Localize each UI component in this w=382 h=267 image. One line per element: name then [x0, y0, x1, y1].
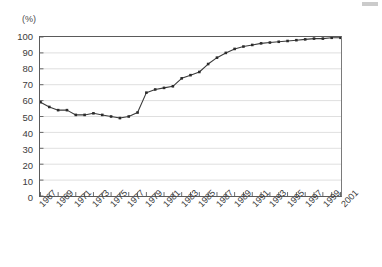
x-axis-tick-labels: 1967196919711973197519771979198119831985… [0, 0, 382, 267]
x-axis-tick-label: 1967 [37, 188, 58, 209]
x-axis-tick-label: 1983 [179, 188, 200, 209]
x-axis-tick-label: 1987 [214, 188, 235, 209]
x-axis-tick-label: 1973 [90, 188, 111, 209]
x-axis-tick-label: 1979 [143, 188, 164, 209]
x-axis-tick-label: 2001 [339, 188, 360, 209]
x-axis-tick-label: 1999 [321, 188, 342, 209]
x-axis-tick-label: 1997 [303, 188, 324, 209]
x-axis-tick-label: 1989 [232, 188, 253, 209]
x-axis-tick-label: 1991 [250, 188, 271, 209]
x-axis-tick-label: 1969 [54, 188, 75, 209]
x-axis-tick-label: 1985 [196, 188, 217, 209]
x-axis-tick-label: 1993 [267, 188, 288, 209]
x-axis-tick-label: 1981 [161, 188, 182, 209]
x-axis-tick-label: 1971 [72, 188, 93, 209]
x-axis-tick-label: 1975 [108, 188, 129, 209]
x-axis-tick-label: 1995 [285, 188, 306, 209]
x-axis-tick-label: 1977 [125, 188, 146, 209]
line-chart: (%) 0102030405060708090100 1967196919711… [0, 0, 382, 267]
